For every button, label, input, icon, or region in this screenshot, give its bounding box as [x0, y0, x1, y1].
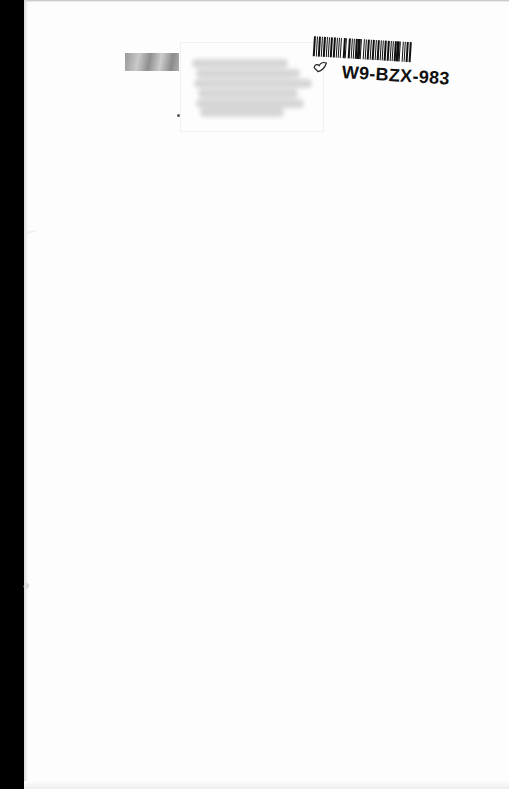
hand-drawn-leaf-icon: [312, 58, 329, 75]
redacted-bookplate-text: [192, 57, 312, 117]
page-bottom-edge: [24, 781, 509, 789]
spine-shadow: [24, 0, 28, 789]
library-barcode-label: W9-BZX-983: [307, 36, 470, 100]
barcode-id-text: W9-BZX-983: [341, 62, 450, 90]
book-page: W9-BZX-983: [24, 0, 509, 789]
faded-sticker-photo: [125, 53, 179, 71]
scanned-page-view: W9-BZX-983: [0, 0, 509, 789]
page-top-edge: [24, 0, 509, 2]
ink-dot: [177, 114, 180, 117]
